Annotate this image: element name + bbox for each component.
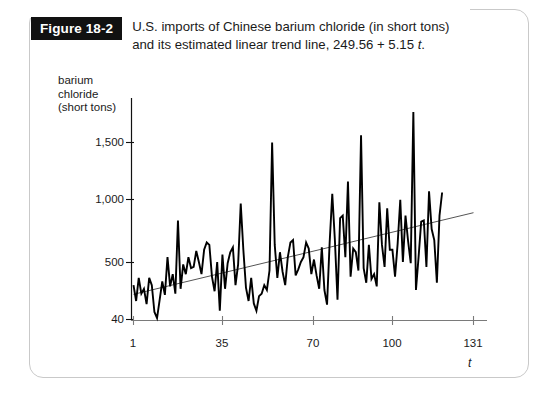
y-axis-ticks — [126, 143, 134, 320]
imports-time-series-line — [134, 112, 443, 318]
chart-plot-area — [0, 0, 542, 410]
